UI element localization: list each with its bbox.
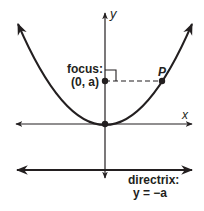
point-p-label: P [158, 66, 166, 79]
y-axis-label: y [110, 7, 117, 20]
vertex-point [102, 121, 108, 127]
x-axis-label: x [182, 109, 188, 122]
directrix-equation-label: y = −a [133, 187, 167, 200]
focus-coordinates-label: (0, a) [71, 76, 99, 89]
focus-point [102, 78, 108, 84]
